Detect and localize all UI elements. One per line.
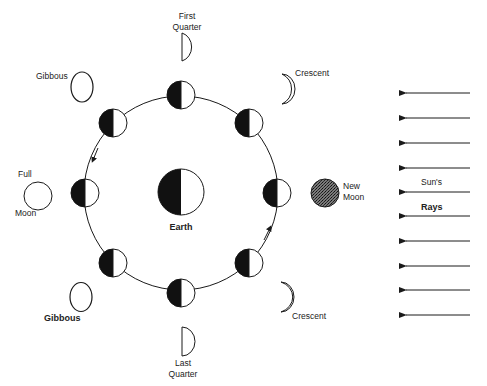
orbit-moon-upper-left bbox=[99, 109, 127, 137]
first-quarter-label-line2: Quarter bbox=[173, 22, 202, 32]
first-quarter-moon bbox=[182, 33, 192, 61]
crescent-upper-label: Crescent bbox=[295, 68, 330, 78]
first-quarter-label-line1: First bbox=[179, 11, 196, 21]
last-quarter-label-line2: Quarter bbox=[169, 369, 198, 379]
gibbous-lower-label: Gibbous bbox=[44, 313, 81, 323]
sun-rays-label-line2: Rays bbox=[421, 202, 443, 212]
last-quarter-label-line1: Last bbox=[175, 358, 192, 368]
gibbous-lower-moon bbox=[70, 283, 92, 312]
orbit-moon-bottom bbox=[167, 279, 195, 307]
gibbous-upper-label: Gibbous bbox=[36, 71, 68, 81]
orbit-moon-right bbox=[263, 179, 291, 207]
new-moon-label-line2: Moon bbox=[343, 192, 365, 202]
full-moon-label-line2: Moon bbox=[15, 208, 37, 218]
full-moon-label-line1: Full bbox=[18, 169, 32, 179]
earth bbox=[158, 169, 204, 215]
new-moon-label-line1: New bbox=[343, 181, 361, 191]
earth-label: Earth bbox=[169, 222, 192, 232]
orbit-moon-lower-right bbox=[235, 249, 263, 277]
crescent-upper-moon bbox=[282, 74, 295, 104]
crescent-lower-label: Crescent bbox=[292, 311, 327, 321]
orbit-moon-upper-right bbox=[235, 109, 263, 137]
sun-rays-label-line1: Sun's bbox=[421, 177, 442, 187]
orbit-moon-left bbox=[71, 179, 99, 207]
orbit-moon-top bbox=[167, 81, 195, 109]
moon-phases-diagram: Earth First Quarter Gibbous Crescent Ful… bbox=[0, 0, 487, 386]
full-moon bbox=[24, 182, 52, 210]
new-moon bbox=[311, 179, 339, 207]
crescent-lower-moon bbox=[281, 282, 294, 312]
gibbous-upper-moon bbox=[71, 72, 93, 102]
last-quarter-moon bbox=[182, 327, 195, 356]
orbit-moon-lower-left bbox=[99, 249, 127, 277]
